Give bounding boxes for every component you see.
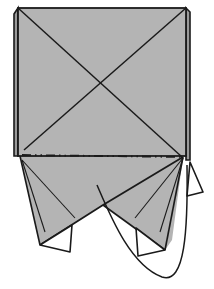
square-body: [18, 8, 186, 157]
lower-flaps: [20, 156, 183, 250]
origami-diagram: [0, 0, 214, 289]
diagram-canvas: [0, 0, 214, 289]
side-flap-tip: [187, 162, 203, 196]
